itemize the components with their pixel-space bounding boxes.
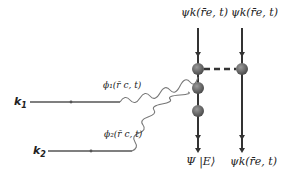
phi2-label: ϕ₂(r̄ c, t): [104, 130, 142, 139]
arrow-icon: [239, 135, 245, 140]
vertex-node: [192, 105, 204, 117]
arrow-icon: [195, 148, 201, 153]
Psi-E-label: Ψ |E⟩: [186, 156, 215, 167]
psi-bottom-right-label: ψk(r̄e, t): [230, 156, 277, 167]
photon-wave-2: [132, 92, 189, 151]
vertex-node: [192, 63, 204, 75]
arrow-icon: [239, 52, 245, 57]
vertex-node: [236, 63, 248, 75]
arrow-icon: [239, 148, 245, 153]
arrow-icon: [195, 52, 201, 57]
k2-label: k2: [33, 145, 46, 159]
psi-top-right-label: ψk(r̄e, t): [231, 7, 278, 18]
arrow-icon: [195, 135, 201, 140]
phi1-label: ϕ₁(r̄ c, t): [103, 81, 141, 90]
k1-label: k1: [14, 96, 27, 110]
psi-top-left-label: ψk(r̄e, t): [181, 7, 228, 18]
vertex-node: [192, 82, 204, 94]
